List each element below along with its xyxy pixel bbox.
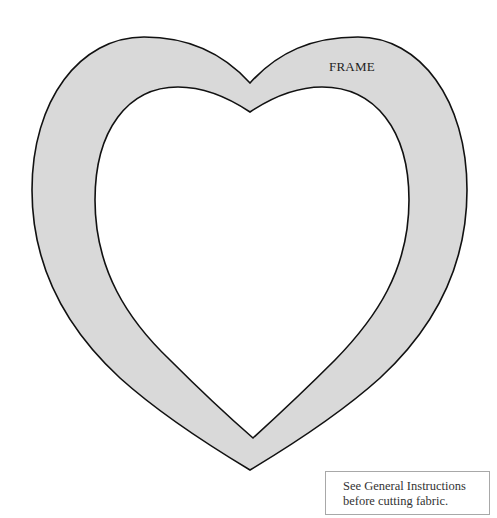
instructions-note: See General Instructions before cutting …	[325, 471, 490, 515]
heart-frame-shape	[32, 37, 467, 470]
pattern-piece-label: FRAME	[329, 59, 375, 75]
note-line-2: before cutting fabric.	[343, 494, 489, 509]
note-line-1: See General Instructions	[343, 479, 489, 494]
heart-frame-pattern	[0, 0, 497, 518]
